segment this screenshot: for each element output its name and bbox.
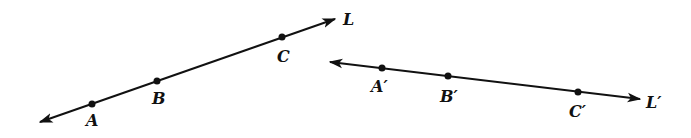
diagram-canvas: A B C L A′ B′ C′ L′ xyxy=(0,0,691,138)
point-B-label: B xyxy=(151,89,166,108)
line-L: A B C L xyxy=(40,10,354,130)
point-B-prime xyxy=(445,73,452,80)
line-L-stroke xyxy=(40,19,335,122)
point-A-prime-label: A′ xyxy=(369,77,388,96)
line-L-prime: A′ B′ C′ L′ xyxy=(330,62,662,121)
line-L-label: L xyxy=(342,10,354,29)
point-B xyxy=(154,78,161,85)
point-A xyxy=(89,101,96,108)
point-C-prime-label: C′ xyxy=(569,102,587,121)
point-A-label: A xyxy=(84,111,98,130)
point-C-prime xyxy=(575,89,582,96)
point-C xyxy=(279,34,286,41)
point-C-label: C xyxy=(277,47,290,66)
point-A-prime xyxy=(379,65,386,72)
line-L-prime-label: L′ xyxy=(645,93,662,112)
point-B-prime-label: B′ xyxy=(439,87,459,106)
